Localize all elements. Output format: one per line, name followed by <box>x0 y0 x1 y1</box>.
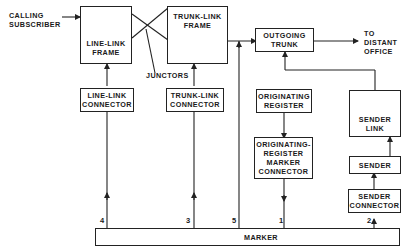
ormc-line4: CONNECTOR <box>259 167 309 176</box>
sender-link-line1: SENDER <box>359 115 391 124</box>
connection-number-1: 1 <box>279 216 283 225</box>
junctors-label: JUNCTORS <box>146 71 189 80</box>
trunk-link-connector-line1: TRUNK-LINK <box>171 91 219 100</box>
originating-register-marker-connector: ORIGINATING- REGISTER MARKER CONNECTOR <box>254 137 313 179</box>
distant-office-line1: TO <box>364 29 397 38</box>
outgoing-trunk-line1: OUTGOING <box>263 31 305 40</box>
line-link-connector: LINE-LINK CONNECTOR <box>80 88 134 112</box>
connection-number-5: 5 <box>232 216 236 225</box>
ormc-line3: MARKER <box>267 158 301 167</box>
connection-number-2: 2 <box>367 216 371 225</box>
distant-office-label: TO DISTANT OFFICE <box>364 29 397 56</box>
outgoing-trunk: OUTGOING TRUNK <box>255 28 314 52</box>
line-link-connector-line1: LINE-LINK <box>87 91 126 100</box>
marker-label: MARKER <box>244 233 278 242</box>
distant-office-line3: OFFICE <box>364 47 397 56</box>
sender-connector-line2: CONNECTOR <box>350 201 400 210</box>
trunk-link-connector: TRUNK-LINK CONNECTOR <box>166 88 224 112</box>
line-link-frame: LINE-LINK FRAME <box>80 6 132 64</box>
line-link-frame-line2: FRAME <box>92 48 120 57</box>
trunk-link-frame: TRUNK-LINK FRAME <box>167 6 228 64</box>
calling-subscriber-line2: SUBSCRIBER <box>9 20 61 29</box>
originating-register-line2: REGISTER <box>264 101 304 110</box>
originating-register-line1: ORIGINATING <box>258 92 310 101</box>
originating-register: ORIGINATING REGISTER <box>256 89 312 113</box>
trunk-link-frame-line1: TRUNK-LINK <box>173 12 221 21</box>
sender: SENDER <box>349 156 401 174</box>
connection-number-3: 3 <box>186 216 190 225</box>
sender-line1: SENDER <box>359 161 391 170</box>
calling-subscriber-label: CALLING SUBSCRIBER <box>9 11 61 29</box>
marker: MARKER <box>95 228 400 246</box>
connection-number-4: 4 <box>100 216 104 225</box>
distant-office-line2: DISTANT <box>364 38 397 47</box>
sender-connector-line1: SENDER <box>358 192 390 201</box>
outgoing-trunk-line2: TRUNK <box>271 40 298 49</box>
trunk-link-frame-line2: FRAME <box>184 21 212 30</box>
line-link-connector-line2: CONNECTOR <box>82 100 132 109</box>
sender-link: SENDER LINK <box>349 90 401 137</box>
trunk-link-connector-line2: CONNECTOR <box>170 100 220 109</box>
sender-connector: SENDER CONNECTOR <box>348 189 401 213</box>
line-link-frame-line1: LINE-LINK <box>86 39 125 48</box>
ormc-line2: REGISTER <box>264 149 304 158</box>
sender-link-line2: LINK <box>366 124 384 133</box>
calling-subscriber-line1: CALLING <box>9 11 61 20</box>
ormc-line1: ORIGINATING- <box>256 140 311 149</box>
